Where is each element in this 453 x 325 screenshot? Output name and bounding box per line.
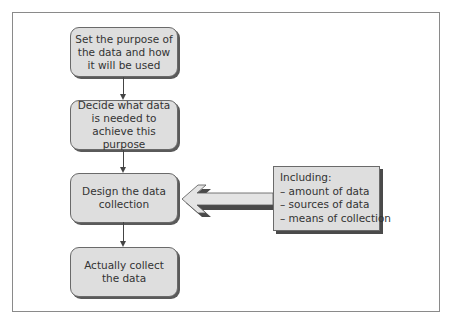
callout-arrow-left-icon — [0, 0, 453, 325]
callout-box: Including: – amount of data – sources of… — [273, 166, 380, 231]
callout-item: – sources of data — [280, 198, 373, 212]
callout-item: – means of collection — [280, 212, 373, 226]
callout-item: – amount of data — [280, 185, 373, 199]
callout-title: Including: — [280, 171, 373, 185]
